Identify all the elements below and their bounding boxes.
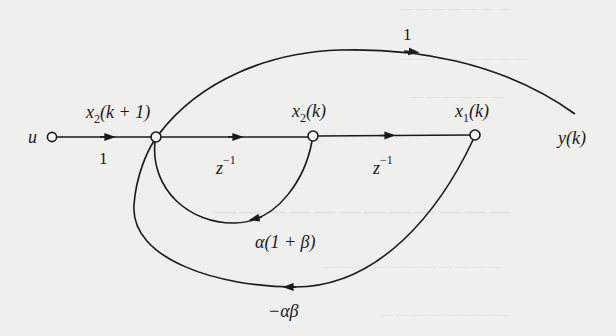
gain-label-outer-feedback: −αβ: [268, 301, 299, 321]
gain-label-x2k1-to-x2k: z−1: [215, 153, 236, 178]
node-x1-k: [470, 130, 480, 140]
branch-x2k-to-x1k: [317, 135, 471, 136]
branch-x1k-to-x2k1-feedback: [134, 140, 473, 287]
branch-x2k1-to-yk: [159, 50, 575, 134]
signal-flow-graph-figure: — — — — — — — — — — — — — — — — — — — — …: [0, 0, 616, 336]
gain-label-inner-feedback: α(1 + β): [255, 232, 316, 253]
node-label-u: u: [28, 127, 37, 147]
node-label-x1-k: x1(k): [454, 101, 489, 125]
node-label-x2-k: x2(k): [291, 101, 326, 125]
arrow-icon: [404, 51, 414, 52]
node-u: [47, 132, 56, 141]
graph-canvas: u x2(k + 1) x2(k) x1(k) y(k) 1 z−1 z−1 1…: [0, 0, 616, 336]
gain-label-u-to-x2k1: 1: [99, 149, 108, 168]
gain-label-x2k1-to-yk: 1: [403, 25, 412, 44]
node-x2-k: [308, 131, 318, 141]
node-label-y-k: y(k): [556, 128, 586, 149]
arrow-icon: [254, 217, 262, 219]
gain-label-x2k-to-x1k: z−1: [372, 153, 393, 178]
node-x2-k-plus-1: [151, 132, 161, 142]
node-label-x2-k-plus-1: x2(k + 1): [85, 102, 150, 126]
